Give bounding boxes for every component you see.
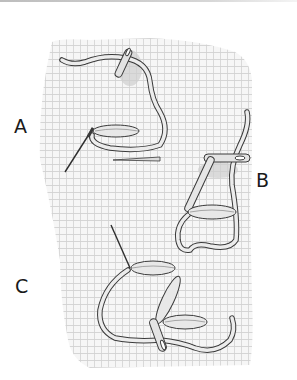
label-b: B bbox=[256, 171, 269, 190]
stitch-illustration bbox=[0, 0, 297, 380]
fabric-weave bbox=[0, 0, 297, 380]
label-a: A bbox=[14, 117, 27, 136]
label-c: C bbox=[15, 277, 28, 296]
